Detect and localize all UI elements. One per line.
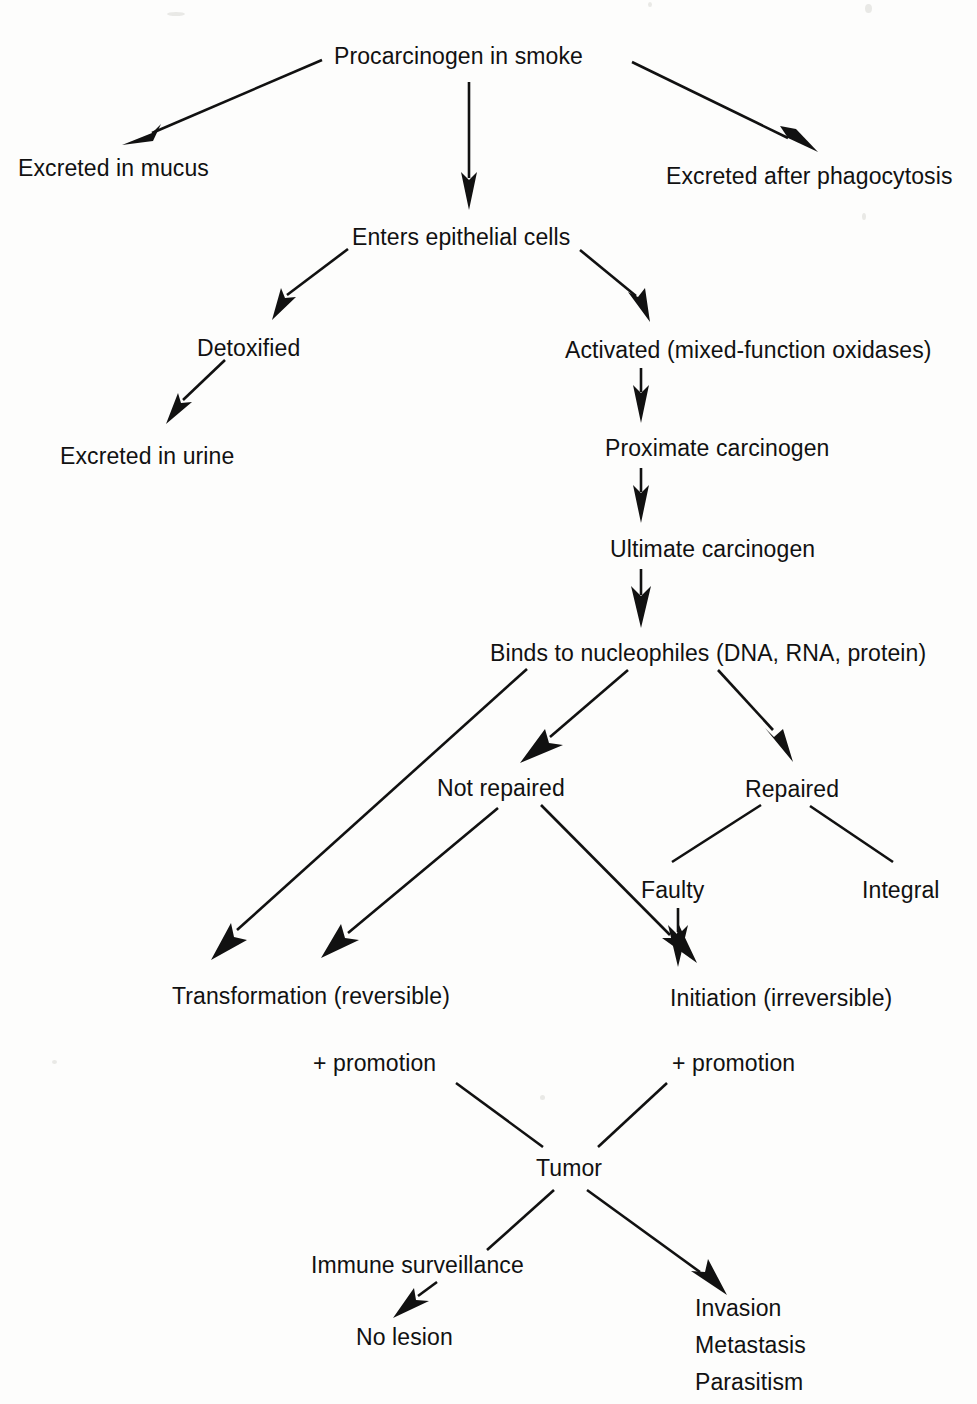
edge-repaired-to-faulty <box>672 805 761 862</box>
node-initiation-irreversible: Initiation (irreversible) <box>670 987 892 1010</box>
node-faulty: Faulty <box>641 879 704 902</box>
edge-epithelial-to-activated <box>580 250 650 322</box>
edge-procarcinogen-to-phagocytosis <box>632 62 818 152</box>
node-transformation-reversible: Transformation (reversible) <box>172 985 450 1008</box>
edge-immune-to-no-lesion <box>393 1282 437 1318</box>
edge-epithelial-to-detoxified <box>272 249 348 320</box>
edge-ultimate-to-binds <box>631 569 651 628</box>
node-ultimate-carcinogen: Ultimate carcinogen <box>610 538 815 561</box>
node-promotion-left: + promotion <box>313 1052 436 1075</box>
edge-proximate-to-ultimate <box>633 468 649 523</box>
node-promotion-right: + promotion <box>672 1052 795 1075</box>
node-excreted-in-urine: Excreted in urine <box>60 445 234 468</box>
node-repaired: Repaired <box>745 778 839 801</box>
node-detoxified: Detoxified <box>197 337 300 360</box>
node-procarcinogen: Procarcinogen in smoke <box>334 45 583 68</box>
edge-activated-to-proximate <box>633 368 649 423</box>
node-excreted-after-phagocytosis: Excreted after phagocytosis <box>666 165 953 188</box>
edge-binds-to-not-repaired <box>520 670 628 763</box>
node-metastasis: Metastasis <box>695 1334 806 1357</box>
flow-connectors <box>0 0 977 1404</box>
node-no-lesion: No lesion <box>356 1326 453 1349</box>
edge-tumor-to-immune-surveillance <box>487 1190 554 1250</box>
edge-procarcinogen-to-mucus <box>122 60 322 145</box>
node-integral: Integral <box>862 879 940 902</box>
node-not-repaired: Not repaired <box>437 777 565 800</box>
edge-repaired-to-integral <box>810 806 893 862</box>
edge-binds-to-repaired <box>718 670 793 762</box>
node-excreted-in-mucus: Excreted in mucus <box>18 157 209 180</box>
node-enters-epithelial-cells: Enters epithelial cells <box>352 226 570 249</box>
node-proximate-carcinogen: Proximate carcinogen <box>605 437 829 460</box>
edge-promotion-right-to-tumor <box>598 1083 667 1147</box>
node-binds-to-nucleophiles: Binds to nucleophiles (DNA, RNA, protein… <box>490 642 926 665</box>
node-invasion: Invasion <box>695 1297 781 1320</box>
edge-faulty-to-initiation <box>668 908 688 967</box>
edge-detoxified-to-urine <box>166 360 225 424</box>
node-tumor: Tumor <box>536 1157 602 1180</box>
node-parasitism: Parasitism <box>695 1371 803 1394</box>
flowchart-canvas: Procarcinogen in smoke Excreted in mucus… <box>0 0 977 1404</box>
edge-promotion-left-to-tumor <box>456 1083 543 1147</box>
node-activated-mixed-function-oxidases: Activated (mixed-function oxidases) <box>565 339 932 362</box>
edge-procarcinogen-to-epithelial <box>461 82 477 210</box>
node-immune-surveillance: Immune surveillance <box>311 1254 524 1277</box>
edge-tumor-to-invasion <box>587 1190 727 1295</box>
